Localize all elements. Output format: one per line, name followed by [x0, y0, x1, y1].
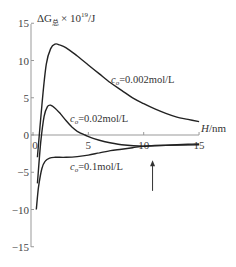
- x-tick-label: 0: [32, 139, 38, 151]
- y-tick-label: −5: [17, 166, 29, 178]
- series-label-002: co=0.02mol/L: [70, 113, 128, 126]
- curves: [36, 44, 199, 210]
- x-tick-label: 5: [86, 139, 92, 151]
- y-tick-label: 5: [24, 92, 30, 104]
- y-tick-label: 0: [24, 129, 30, 141]
- x-axis-label: H/nm: [200, 122, 227, 134]
- y-tick-label: 10: [18, 55, 30, 67]
- series-label-01: co=0.1mol/L: [70, 161, 123, 174]
- up-arrow-icon: [150, 160, 155, 191]
- x-tick-label: 10: [138, 139, 150, 151]
- chart: 151050−5−10−15 051015 ΔG总× 1019/J H/nm c…: [0, 0, 236, 267]
- y-axis-label: ΔG总× 1019/J: [37, 11, 96, 27]
- series-line-2: [36, 144, 199, 210]
- series-label-0002: co=0.002mol/L: [111, 74, 174, 87]
- y-tick-label: −15: [12, 241, 30, 253]
- series-line-0: [37, 44, 199, 157]
- y-tick-label: −10: [12, 204, 30, 216]
- y-tick-label: 15: [18, 17, 30, 29]
